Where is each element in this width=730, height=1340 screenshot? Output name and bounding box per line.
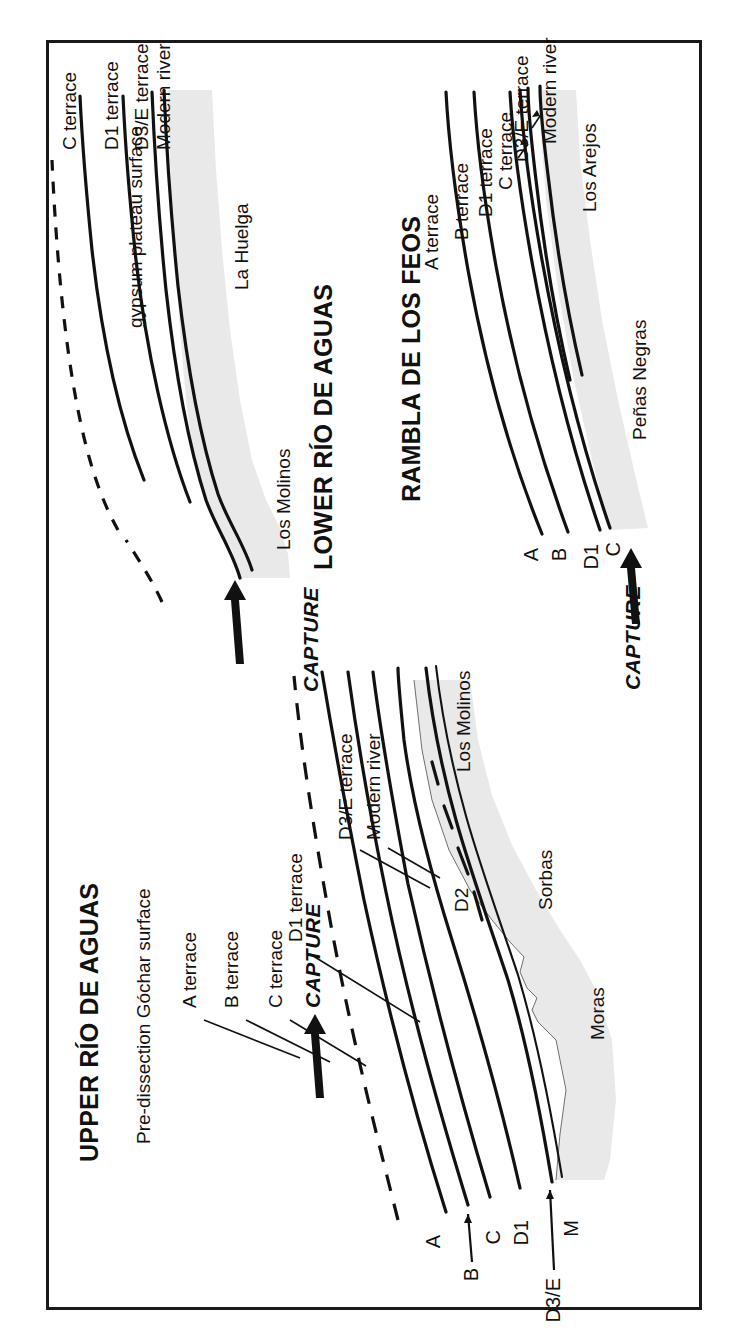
capture-label-upper: CAPTURE — [301, 903, 324, 1008]
rotated-artwork-wrapper: A B C D1 D3/E M UPPER RÍO DE AGUAS Pre-d… — [0, 0, 730, 1340]
leader-modern-river-upper — [388, 848, 440, 878]
valley-shading-lower — [168, 90, 290, 578]
label-b-terrace-upper: B terrace — [221, 931, 242, 1008]
place-los-arejos-rambla: Los Arejos — [579, 123, 600, 212]
capture-arrow-upper — [304, 1014, 326, 1098]
capture-annotation-upper: CAPTURE — [301, 903, 326, 1098]
label-d3e-terrace-rambla: D3/E terrace — [511, 55, 532, 162]
axis-label-c-rambla: C — [602, 542, 624, 556]
label-a-terrace-rambla: A terrace — [421, 194, 442, 270]
axis-label-m-upper: M — [560, 1220, 582, 1237]
label-d3e-terrace-upper: D3/E terrace — [335, 733, 356, 840]
label-modern-river-rambla: Modern river — [539, 37, 560, 144]
axis-label-d1-upper: D1 — [510, 1220, 532, 1246]
place-los-molinos-lower: Los Molinos — [273, 449, 294, 550]
label-a-terrace-upper: A terrace — [179, 932, 200, 1008]
axis-label-a-rambla: A — [520, 547, 542, 561]
axis-label-d1-rambla: D1 — [580, 544, 602, 570]
diagram-svg: A B C D1 D3/E M UPPER RÍO DE AGUAS Pre-d… — [0, 0, 730, 1340]
profile-gypsum-plateau-lower — [126, 540, 162, 602]
label-d3e-terrace-lower: D3/E terrace — [131, 43, 152, 150]
label-gypsum-plateau-lower: gypsum plateau surface — [125, 126, 146, 328]
label-predissection-gochar-upper: Pre-dissection Góchar surface — [133, 888, 154, 1144]
axis-labels-rambla: A B D1 C — [520, 542, 624, 570]
label-b-terrace-rambla: B terrace — [451, 163, 472, 240]
place-los-molinos-upper: Los Molinos — [453, 671, 474, 772]
panel-title-lower: LOWER RÍO DE AGUAS — [309, 284, 337, 570]
capture-annotation-rambla: CAPTURE — [620, 548, 644, 690]
capture-arrow-lower — [224, 580, 246, 664]
place-moras-upper: Moras — [587, 987, 608, 1040]
axis-label-b-upper: B — [460, 1268, 482, 1281]
axis-label-a-upper: A — [422, 1234, 444, 1248]
panel-upper-rio-de-aguas: A B C D1 D3/E M UPPER RÍO DE AGUAS Pre-d… — [75, 666, 616, 1322]
capture-label-lower: CAPTURE — [299, 587, 322, 692]
panel-rambla-de-los-feos: RAMBLA DE LOS FEOS A terrace B terrace D… — [397, 37, 650, 690]
label-d1-terrace-lower: D1 terrace — [101, 61, 122, 150]
place-penas-negras-rambla: Peñas Negras — [629, 320, 650, 440]
label-d2-upper: D2 — [451, 888, 472, 912]
axis-label-c-upper: C — [482, 1230, 504, 1244]
label-modern-river-upper: Modern river — [363, 733, 384, 840]
label-d1-terrace-rambla: D1 terrace — [475, 128, 496, 217]
axis-label-d3e-upper: D3/E — [542, 1278, 564, 1322]
leader-d3e-terrace-upper — [360, 850, 430, 888]
axis-label-b-rambla: B — [548, 548, 570, 561]
panel-lower-rio-de-aguas: LOWER RÍO DE AGUAS gypsum plateau surfac… — [52, 43, 337, 692]
valley-shading-upper — [414, 680, 616, 1180]
place-sorbas-upper: Sorbas — [535, 850, 556, 910]
label-c-terrace-upper: C terrace — [265, 930, 286, 1008]
profile-gypsum-plateau-lower-2 — [52, 160, 118, 530]
panel-title-upper: UPPER RÍO DE AGUAS — [75, 883, 103, 1162]
label-c-terrace-lower: C terrace — [59, 72, 80, 150]
place-la-huelga-lower: La Huelga — [231, 203, 252, 290]
capture-annotation-lower: CAPTURE — [224, 580, 322, 692]
label-modern-river-lower: Modern river — [153, 43, 174, 150]
figure-root: A B C D1 D3/E M UPPER RÍO DE AGUAS Pre-d… — [0, 0, 730, 1340]
